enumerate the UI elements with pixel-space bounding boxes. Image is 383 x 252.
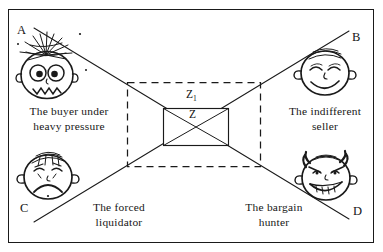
figure-canvas: A B C D Z1 Z The buyer under heavy press… (0, 0, 383, 252)
caption-seller-line1: The indifferent (272, 104, 378, 119)
liquidator-face (17, 152, 79, 199)
caption-buyer-line2: heavy pressure (10, 119, 128, 134)
caption-liquidator-line2: liquidator (60, 215, 178, 230)
hunter-face (295, 151, 357, 200)
caption-liquidator: The forced liquidator (60, 200, 178, 229)
corner-label-d: D (353, 204, 362, 219)
caption-hunter: The bargain hunter (215, 200, 333, 229)
zone-label-z: Z (189, 108, 196, 120)
buyer-face (16, 32, 87, 99)
corner-label-b: B (352, 30, 361, 45)
corner-label-c: C (20, 201, 29, 216)
caption-liquidator-line1: The forced (60, 200, 178, 215)
zone-label-z1-base: Z (186, 88, 193, 100)
zone-label-z1: Z1 (186, 88, 197, 103)
caption-buyer: The buyer under heavy pressure (10, 104, 128, 133)
caption-seller-line2: seller (272, 119, 378, 134)
seller-face (294, 49, 356, 95)
caption-hunter-line2: hunter (215, 215, 333, 230)
caption-hunter-line1: The bargain (215, 200, 333, 215)
caption-buyer-line1: The buyer under (10, 104, 128, 119)
corner-label-a: A (17, 23, 26, 38)
caption-seller: The indifferent seller (272, 104, 378, 133)
zone-label-z1-subscript: 1 (193, 94, 197, 103)
